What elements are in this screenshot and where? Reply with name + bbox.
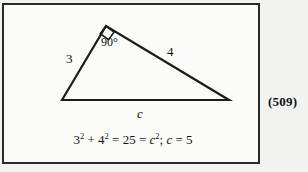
triangle-outline (62, 26, 229, 100)
triangle-leg-b-label: 4 (167, 45, 174, 58)
pythagorean-equation: 32 + 42 = 25 = c2; c = 5 (4, 133, 262, 147)
triangle-hypotenuse-label: c (137, 107, 143, 120)
figure-frame: 3 4 90° c 32 + 42 = 25 = c2; c = 5 (2, 3, 260, 164)
equation-equals-2: = (136, 132, 150, 147)
equation-value: 25 (123, 132, 136, 147)
figure-caption-number: (509) (268, 94, 297, 110)
equation-equals-3: = (172, 132, 186, 147)
right-angle-degree-label: 90° (101, 36, 118, 48)
page-canvas: 3 4 90° c 32 + 42 = 25 = c2; c = 5 (509) (0, 0, 308, 172)
equation-result: 5 (186, 132, 193, 147)
equation-operator-plus: + (84, 132, 98, 147)
triangle-leg-a-label: 3 (66, 52, 73, 65)
equation-equals-1: = (109, 132, 123, 147)
